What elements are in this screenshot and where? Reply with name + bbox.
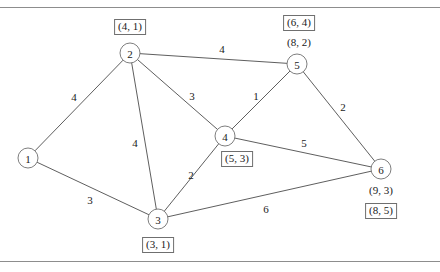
edge-1-2 xyxy=(35,60,123,151)
node-label-3: 3 xyxy=(155,214,161,225)
edge-weight-1-2: 4 xyxy=(71,92,77,103)
node-label-4: 4 xyxy=(222,131,228,142)
edge-weight-1-3: 3 xyxy=(87,195,93,206)
graph-figure: 434342615212(4, 1)3(3, 1)4(5, 3)5(6, 4)(… xyxy=(0,0,440,272)
edge-weight-2-4: 3 xyxy=(189,91,195,102)
edge-weight-2-3: 4 xyxy=(132,138,138,149)
node-3-annotation-1-boxed: (3, 1) xyxy=(142,237,174,253)
edges-layer xyxy=(35,54,375,217)
graph-canvas xyxy=(0,0,440,272)
edge-2-5 xyxy=(140,54,287,64)
node-label-5: 5 xyxy=(294,59,300,70)
edge-weight-4-6: 5 xyxy=(301,138,307,149)
edge-weight-3-4: 2 xyxy=(188,170,194,181)
node-6-annotation-2-boxed: (8, 5) xyxy=(365,203,397,219)
edge-5-6 xyxy=(303,72,375,161)
node-6-annotation-1: (9, 3) xyxy=(369,185,393,196)
node-label-1: 1 xyxy=(25,153,31,164)
node-2-annotation-1-boxed: (4, 1) xyxy=(114,19,146,35)
edge-2-4 xyxy=(138,60,218,130)
node-5-annotation-1-boxed: (6, 4) xyxy=(283,15,315,31)
edge-weight-3-6: 6 xyxy=(263,204,269,215)
node-4-annotation-1-boxed: (5, 3) xyxy=(221,151,253,167)
edge-1-3 xyxy=(37,162,149,215)
edge-3-6 xyxy=(168,171,371,217)
node-label-2: 2 xyxy=(127,48,133,59)
nodes-layer xyxy=(18,43,391,229)
node-5-annotation-2: (8, 2) xyxy=(287,37,311,48)
edge-4-5 xyxy=(232,71,290,129)
edge-weight-5-6: 2 xyxy=(340,102,346,113)
edge-weight-2-5: 4 xyxy=(219,44,225,55)
node-label-6: 6 xyxy=(378,164,384,175)
edge-weight-4-5: 1 xyxy=(253,91,259,102)
